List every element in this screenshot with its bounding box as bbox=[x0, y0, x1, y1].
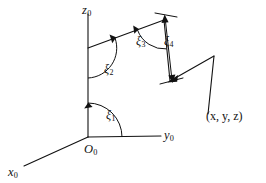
axis-label-x0: x0 bbox=[8, 166, 18, 181]
origin-label-O0: O0 bbox=[84, 143, 97, 158]
angle-label-xi1: ξ1 bbox=[106, 109, 115, 123]
axis-label-x0-subscript: 0 bbox=[14, 171, 18, 180]
axis-label-z0: z0 bbox=[82, 4, 91, 19]
dimension-tick-top bbox=[155, 13, 177, 17]
axis-label-y0-subscript: 0 bbox=[170, 134, 174, 143]
axis-line-y0 bbox=[88, 136, 161, 137]
angle-arc-xi1 bbox=[88, 103, 122, 137]
axis-label-z0-subscript: 0 bbox=[87, 9, 91, 18]
axis-line-x0 bbox=[24, 137, 88, 166]
angle-label-xi2-subscript: 2 bbox=[109, 68, 113, 77]
angle-label-xi4: ξ4 bbox=[164, 35, 173, 49]
angle-label-xi3: ξ3 bbox=[136, 35, 145, 49]
coordinate-frame-figure: z0 y0 x0 O0 ξ1 ξ2 ξ3 ξ4 (x, y, z) bbox=[0, 0, 266, 183]
angle-label-xi2: ξ2 bbox=[104, 63, 113, 77]
figure-canvas bbox=[0, 0, 266, 183]
angle-label-xi4-subscript: 4 bbox=[169, 40, 173, 49]
link-segment-4 bbox=[208, 56, 214, 114]
point-label-xyz: (x, y, z) bbox=[206, 110, 243, 122]
origin-label-O0-subscript: 0 bbox=[93, 148, 97, 157]
axis-label-y0: y0 bbox=[164, 129, 174, 144]
link-segment-1 bbox=[88, 20, 164, 48]
angle-label-xi3-subscript: 3 bbox=[141, 40, 145, 49]
angle-label-xi1-subscript: 1 bbox=[111, 114, 115, 123]
